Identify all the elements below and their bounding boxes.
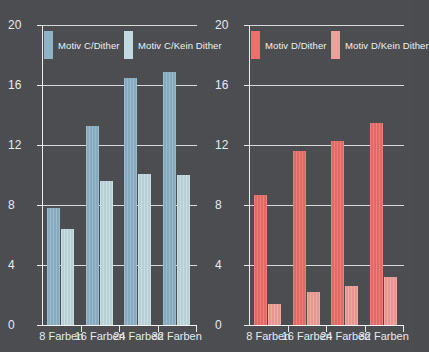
legend-label: Motiv D/Kein Dither xyxy=(345,40,429,51)
bar-group xyxy=(159,25,198,325)
bar-group xyxy=(250,25,289,325)
x-tick-labels-right: 8 Farben16 Farben24 Farben32 Farben xyxy=(249,330,404,346)
legend-right: Motiv D/Dither Motiv D/Kein Dither xyxy=(251,30,403,60)
bars-left xyxy=(43,25,197,325)
y-tick-0 xyxy=(37,325,43,326)
y-axis-label: 20 xyxy=(215,18,228,32)
y-axis-label: 8 xyxy=(215,198,222,212)
bar xyxy=(47,208,60,325)
x-tick-labels-left: 8 Farben16 Farben24 Farben32 Farben xyxy=(42,330,197,346)
y-axis-label: 0 xyxy=(215,318,222,332)
bar xyxy=(293,151,306,325)
bars-right xyxy=(250,25,404,325)
legend-swatch-icon xyxy=(44,31,53,59)
legend-item-1-right[interactable]: Motiv D/Kein Dither xyxy=(331,30,429,60)
y-axis-label: 4 xyxy=(215,258,222,272)
bar xyxy=(177,175,190,325)
bar xyxy=(370,123,383,326)
chart-motiv-d: 048121620 8 Farben16 Farben24 Farben32 F… xyxy=(207,0,414,352)
legend-swatch-icon xyxy=(251,31,260,59)
x-tick-label: 32 Farben xyxy=(152,330,202,342)
bar-group xyxy=(43,25,82,325)
bar-group xyxy=(82,25,121,325)
legend-item-0-right[interactable]: Motiv D/Dither xyxy=(251,30,327,60)
y-axis-label: 16 xyxy=(215,78,228,92)
bar xyxy=(124,78,137,326)
legend-swatch-icon xyxy=(124,31,133,59)
bar-group xyxy=(289,25,328,325)
x-tick-label: 32 Farben xyxy=(359,330,409,342)
chart-motiv-c: 048121620 8 Farben16 Farben24 Farben32 F… xyxy=(0,0,207,352)
y-tick-0 xyxy=(244,325,250,326)
bar xyxy=(86,126,99,326)
y-axis-label: 12 xyxy=(215,138,228,152)
bar xyxy=(307,292,320,325)
bar xyxy=(254,195,267,326)
y-axis-label: 20 xyxy=(8,18,21,32)
bar xyxy=(268,304,281,325)
bar xyxy=(61,229,74,325)
y-axis-label: 4 xyxy=(8,258,15,272)
bar xyxy=(100,181,113,325)
bar-group xyxy=(120,25,159,325)
bar xyxy=(384,277,397,325)
bar xyxy=(138,174,151,326)
y-axis-label: 0 xyxy=(8,318,15,332)
bar xyxy=(331,141,344,326)
legend-left: Motiv C/Dither Motiv C/Kein Dither xyxy=(44,30,196,60)
legend-label: Motiv D/Dither xyxy=(265,40,327,51)
y-axis-label: 8 xyxy=(8,198,15,212)
y-axis-label: 12 xyxy=(8,138,21,152)
y-axis-label: 16 xyxy=(8,78,21,92)
legend-label: Motiv C/Dither xyxy=(58,40,120,51)
legend-item-0-left[interactable]: Motiv C/Dither xyxy=(44,30,120,60)
bar-group xyxy=(366,25,405,325)
bar xyxy=(345,286,358,325)
legend-swatch-icon xyxy=(331,31,340,59)
bar xyxy=(163,72,176,326)
bar-group xyxy=(327,25,366,325)
